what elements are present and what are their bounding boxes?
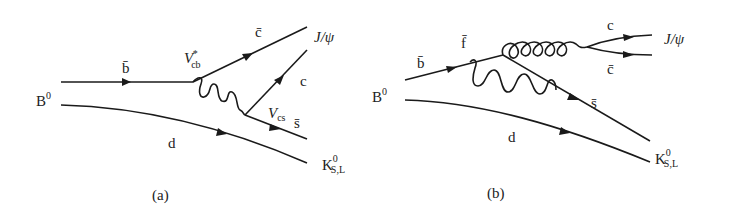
feynman-diagrams: b̄ B0 d V*cb Vcs c̄ c s̄ J/ψ K0S,L (a) b <box>0 0 731 216</box>
label-jpsi: J/ψ <box>664 31 685 47</box>
label-sbar: s̄ <box>294 115 300 131</box>
label-b0: B0 <box>36 90 51 109</box>
caption-b: (b) <box>487 185 505 202</box>
label-k0sl: K0S,L <box>655 147 678 169</box>
label-d: d <box>168 135 176 151</box>
label-b0: B0 <box>372 86 387 105</box>
arrow-icon <box>623 51 634 58</box>
label-c: c <box>607 17 614 33</box>
label-k0sl: K0S,L <box>322 153 345 175</box>
cbar-quark-line <box>587 47 652 55</box>
label-jpsi: J/ψ <box>314 29 335 45</box>
label-d: d <box>508 129 516 145</box>
arrow-icon <box>122 78 131 86</box>
label-c: c <box>300 73 307 89</box>
label-bbar: b̄ <box>122 60 130 76</box>
label-bbar: b̄ <box>417 55 425 71</box>
w-boson-line <box>470 60 556 94</box>
w-boson-line <box>193 78 245 115</box>
label-vcb: V*cb <box>184 48 201 70</box>
arrow-icon <box>623 34 634 41</box>
label-cbar: c̄ <box>607 61 614 77</box>
gluon-line <box>502 42 587 58</box>
label-fbar: f̄ <box>461 35 467 51</box>
d-quark-line <box>405 100 650 162</box>
arrow-icon <box>446 66 457 73</box>
caption-a: (a) <box>152 187 169 204</box>
diagram-b: b̄ f̄ B0 d c c̄ s̄ J/ψ K0S,L (b) <box>372 17 685 202</box>
diagram-a: b̄ B0 d V*cb Vcs c̄ c s̄ J/ψ K0S,L (a) <box>36 24 345 204</box>
c-quark-line <box>587 35 652 47</box>
label-sbar: s̄ <box>591 95 597 111</box>
label-cbar: c̄ <box>255 24 262 40</box>
label-vcs: Vcs <box>268 105 286 123</box>
